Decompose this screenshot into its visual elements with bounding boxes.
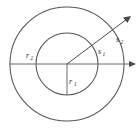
label-r1-base: r [69,77,73,86]
horizontal-axis-arrowhead-icon [129,61,136,67]
figure-canvas: r 1 r 2 s 1 s 2 [0,0,139,132]
label-s1-base: s [98,47,101,56]
diagonal-ray-arrowhead-icon [123,16,131,23]
geometry-figure: r 1 r 2 s 1 s 2 [0,0,139,132]
label-r1-subscript: 1 [74,81,77,87]
label-s2-subscript: 2 [121,39,124,45]
label-s1-subscript: 1 [103,51,106,57]
label-s2: s 2 [116,35,124,45]
label-r2-base: r [26,51,30,60]
label-r1: r 1 [69,77,77,87]
label-r2: r 2 [26,51,34,61]
label-r2-subscript: 2 [31,55,34,61]
label-s2-base: s [116,35,119,44]
label-s1: s 1 [98,47,106,57]
